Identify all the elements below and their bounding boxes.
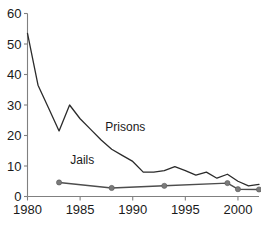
series-marker-jails xyxy=(256,187,261,192)
series-marker-jails xyxy=(225,180,230,185)
series-label-jails: Jails xyxy=(70,153,94,167)
series-label-prisons: Prisons xyxy=(105,120,145,134)
series-marker-jails xyxy=(235,187,240,192)
series-marker-jails xyxy=(162,183,167,188)
x-tick-label: 1985 xyxy=(66,202,95,217)
y-tick-label: 10 xyxy=(7,159,21,174)
y-tick-label: 60 xyxy=(7,6,21,21)
x-tick-label: 1995 xyxy=(171,202,200,217)
y-tick-label: 30 xyxy=(7,98,21,113)
chart-plot-area: 010203040506019801985199019952000Prisons… xyxy=(0,0,261,225)
line-chart: 010203040506019801985199019952000Prisons… xyxy=(0,0,261,225)
series-marker-jails xyxy=(109,185,114,190)
x-tick-label: 2000 xyxy=(223,202,252,217)
y-tick-label: 20 xyxy=(7,128,21,143)
series-marker-jails xyxy=(56,180,61,185)
y-tick-label: 50 xyxy=(7,37,21,52)
series-line-prisons xyxy=(28,33,260,186)
y-tick-label: 40 xyxy=(7,67,21,82)
x-tick-label: 1990 xyxy=(118,202,147,217)
x-tick-label: 1980 xyxy=(13,202,42,217)
